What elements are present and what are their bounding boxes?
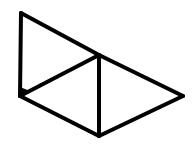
- geometry-diagram: [0, 0, 195, 153]
- edge-BC: [20, 55, 99, 96]
- edge-CE: [99, 55, 183, 96]
- edge-AB: [20, 13, 21, 96]
- edges-group: [20, 13, 183, 136]
- edge-DE: [99, 96, 183, 136]
- edge-BD: [20, 96, 99, 136]
- edge-AC: [21, 13, 99, 55]
